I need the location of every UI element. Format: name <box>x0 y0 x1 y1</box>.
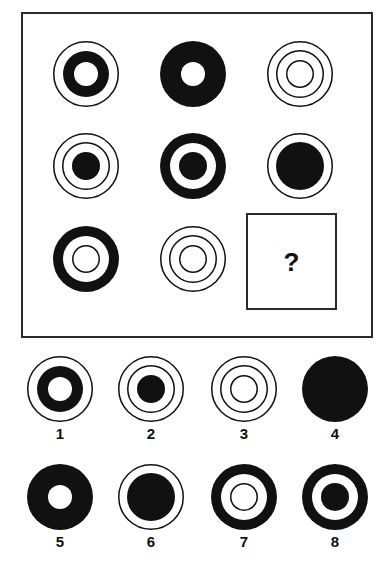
missing-figure-box: ? <box>246 213 337 310</box>
matrix-cell-r3c1 <box>51 224 121 294</box>
matrix-cell-r1c3 <box>265 39 335 109</box>
concentric-circles-icon <box>116 462 186 532</box>
question-mark: ? <box>284 249 300 275</box>
concentric-circles-icon <box>51 131 121 201</box>
answer-option-8[interactable] <box>300 462 370 532</box>
answer-option-label: 2 <box>136 426 166 441</box>
concentric-circles-icon <box>265 131 335 201</box>
answer-option-label: 8 <box>320 534 350 549</box>
matrix-cell-r2c3 <box>265 131 335 201</box>
answer-option-label: 3 <box>229 426 259 441</box>
concentric-circles-icon <box>116 354 186 424</box>
answer-option-6[interactable] <box>116 462 186 532</box>
matrix-cell-r2c1 <box>51 131 121 201</box>
answer-option-label: 7 <box>229 534 259 549</box>
matrix-cell-r1c2 <box>158 39 228 109</box>
matrix-cell-r3c2 <box>158 224 228 294</box>
answer-option-4[interactable] <box>300 354 370 424</box>
puzzle-page: ? 12345678 <box>0 0 392 568</box>
concentric-circles-icon <box>300 462 370 532</box>
concentric-circles-icon <box>265 39 335 109</box>
answer-option-1[interactable] <box>25 354 95 424</box>
answer-option-label: 1 <box>45 426 75 441</box>
concentric-circles-icon <box>209 462 279 532</box>
concentric-circles-icon <box>209 354 279 424</box>
concentric-circles-icon <box>300 354 370 424</box>
answer-option-7[interactable] <box>209 462 279 532</box>
answer-option-label: 4 <box>320 426 350 441</box>
matrix-cell-r1c1 <box>51 39 121 109</box>
concentric-circles-icon <box>51 224 121 294</box>
concentric-circles-icon <box>158 39 228 109</box>
concentric-circles-icon <box>25 462 95 532</box>
answer-option-label: 5 <box>45 534 75 549</box>
matrix-cell-r2c2 <box>158 131 228 201</box>
concentric-circles-icon <box>158 224 228 294</box>
answer-option-3[interactable] <box>209 354 279 424</box>
concentric-circles-icon <box>25 354 95 424</box>
answer-option-label: 6 <box>136 534 166 549</box>
answer-option-2[interactable] <box>116 354 186 424</box>
answer-option-5[interactable] <box>25 462 95 532</box>
concentric-circles-icon <box>51 39 121 109</box>
concentric-circles-icon <box>158 131 228 201</box>
